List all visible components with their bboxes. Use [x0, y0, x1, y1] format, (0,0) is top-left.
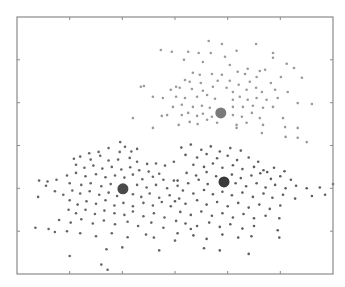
- data-point: [271, 197, 274, 200]
- data-point: [232, 216, 235, 219]
- data-point: [192, 106, 195, 109]
- data-point: [95, 173, 98, 176]
- data-point: [75, 172, 78, 175]
- data-point: [236, 159, 239, 162]
- data-point: [163, 216, 166, 219]
- data-point: [232, 98, 235, 101]
- data-point: [255, 182, 258, 185]
- data-point: [122, 202, 125, 205]
- data-point: [235, 50, 238, 53]
- data-point: [245, 89, 248, 92]
- data-point: [199, 74, 202, 77]
- data-point: [205, 153, 208, 156]
- data-point: [235, 124, 238, 127]
- data-point: [301, 77, 304, 80]
- data-point: [272, 56, 275, 59]
- data-point: [224, 56, 227, 59]
- data-point: [247, 206, 250, 209]
- data-point: [80, 184, 83, 187]
- data-point: [176, 185, 179, 188]
- data-point: [176, 179, 179, 182]
- data-point: [153, 212, 156, 215]
- data-point: [152, 176, 155, 179]
- data-point: [173, 179, 176, 182]
- data-point: [67, 209, 70, 212]
- data-point: [132, 210, 135, 213]
- data-point: [272, 52, 275, 55]
- data-point: [229, 147, 232, 150]
- data-point: [175, 95, 178, 98]
- data-point: [219, 150, 222, 153]
- data-point: [255, 86, 258, 89]
- data-point: [148, 192, 151, 195]
- data-point: [136, 148, 139, 151]
- data-point: [179, 211, 182, 214]
- data-point: [209, 107, 212, 110]
- data-point: [231, 194, 234, 197]
- data-point: [126, 220, 129, 223]
- data-point: [153, 236, 156, 239]
- data-point: [145, 233, 148, 236]
- data-point: [237, 236, 240, 239]
- data-point: [265, 98, 268, 101]
- data-point: [246, 98, 249, 101]
- data-point: [166, 114, 169, 117]
- data-point: [215, 175, 218, 178]
- data-point: [170, 89, 173, 92]
- data-point: [229, 64, 232, 67]
- data-point: [262, 169, 265, 172]
- data-point: [236, 71, 239, 74]
- data-point: [95, 203, 98, 206]
- data-point: [187, 50, 190, 53]
- data-point: [132, 173, 135, 176]
- data-point: [111, 232, 114, 235]
- data-point: [221, 74, 224, 77]
- data-point: [232, 164, 235, 167]
- data-point: [196, 95, 199, 98]
- data-point: [219, 249, 222, 252]
- data-point: [152, 95, 155, 98]
- data-point: [132, 117, 135, 120]
- data-point: [206, 94, 209, 97]
- data-point: [172, 106, 175, 109]
- data-point: [202, 89, 205, 92]
- data-point: [240, 149, 243, 152]
- data-point: [188, 80, 191, 83]
- data-point: [62, 194, 65, 197]
- data-point: [203, 247, 206, 250]
- data-point: [113, 212, 116, 215]
- data-point: [221, 191, 224, 194]
- data-point: [262, 107, 265, 110]
- data-point: [200, 82, 203, 85]
- data-point: [200, 210, 203, 213]
- data-point: [73, 158, 76, 161]
- data-point: [255, 43, 258, 46]
- data-point: [161, 201, 164, 204]
- data-point: [132, 193, 135, 196]
- data-point: [75, 164, 78, 167]
- data-point: [283, 170, 286, 173]
- data-point: [89, 158, 92, 161]
- data-point: [259, 70, 262, 73]
- data-point: [285, 62, 288, 65]
- data-point: [150, 221, 153, 224]
- data-point: [264, 68, 267, 71]
- data-point: [128, 157, 131, 160]
- data-point: [208, 221, 211, 224]
- data-point: [104, 176, 107, 179]
- data-point: [100, 263, 103, 266]
- data-point: [164, 164, 167, 167]
- data-point: [109, 183, 112, 186]
- data-point: [106, 268, 109, 271]
- data-point: [241, 168, 244, 171]
- data-point: [54, 190, 57, 193]
- data-point: [190, 228, 193, 231]
- data-point: [92, 222, 95, 225]
- data-point: [140, 196, 143, 199]
- data-point: [196, 123, 199, 126]
- data-point: [178, 86, 181, 89]
- data-point: [97, 151, 100, 154]
- data-point: [174, 239, 177, 242]
- data-point: [160, 49, 163, 52]
- data-point: [155, 184, 158, 187]
